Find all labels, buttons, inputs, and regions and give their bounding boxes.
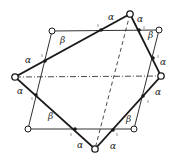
intersection-point (73, 127, 77, 131)
quadrilateral-vertex (12, 74, 18, 80)
intersection-point (151, 56, 155, 60)
angle-label: α (110, 141, 116, 151)
angle-label: α (137, 14, 143, 24)
parallelogram-vertex (131, 126, 137, 132)
angle-label: β (147, 30, 153, 40)
parallelogram-vertex (25, 126, 31, 132)
quadrilateral-vertex (127, 11, 133, 17)
parallelogram-vertex (156, 27, 162, 33)
quadrilateral-vertex (158, 73, 164, 79)
geometry-diagram: α β α α β α α β α α β α (0, 0, 178, 163)
angle-label: α (25, 55, 31, 65)
diagram-svg: α β α α β α α β α α β α (0, 0, 178, 163)
angle-label: β (59, 35, 65, 45)
angle-label: α (160, 57, 166, 67)
intersection-point (137, 28, 141, 32)
horizontal-axis-line (15, 76, 161, 77)
angle-label: α (155, 87, 161, 97)
intersection-point (141, 94, 145, 98)
intersection-point (34, 93, 38, 97)
parallelogram-vertex (49, 28, 55, 34)
intersection-point (111, 128, 115, 132)
intersection-point (99, 28, 103, 32)
intersection-point (43, 59, 47, 63)
angle-label: β (47, 111, 53, 121)
angle-label: α (108, 12, 114, 22)
angle-label: α (77, 140, 83, 150)
angle-label: β (125, 114, 131, 124)
angle-label: α (17, 86, 23, 96)
quadrilateral-vertex (92, 146, 98, 152)
